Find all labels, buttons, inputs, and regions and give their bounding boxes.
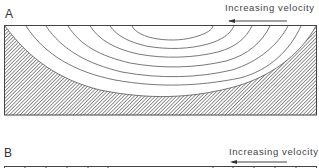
panel-b-frame [4,166,317,168]
panel-a-isovels [26,26,301,85]
channel-diagram [0,0,319,168]
panel-b-velocity-arrow-icon [230,160,287,164]
panel-a-velocity-arrow-icon [228,19,287,23]
